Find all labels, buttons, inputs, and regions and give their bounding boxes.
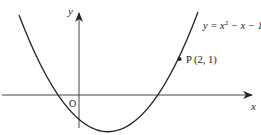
parabola-curve xyxy=(19,12,198,132)
equation-suffix: − x − 1 xyxy=(228,20,261,31)
origin-label: O xyxy=(69,98,76,109)
parabola-diagram: y x O P (2, 1) y = x2 − x − 1 xyxy=(0,0,261,135)
equation-prefix: y = x xyxy=(202,20,225,31)
point-p-dot xyxy=(178,57,182,61)
x-axis-label: x xyxy=(250,100,256,112)
y-axis-label: y xyxy=(67,5,73,17)
equation-label: y = x2 − x − 1 xyxy=(202,19,261,31)
point-p-label: P (2, 1) xyxy=(186,54,217,66)
